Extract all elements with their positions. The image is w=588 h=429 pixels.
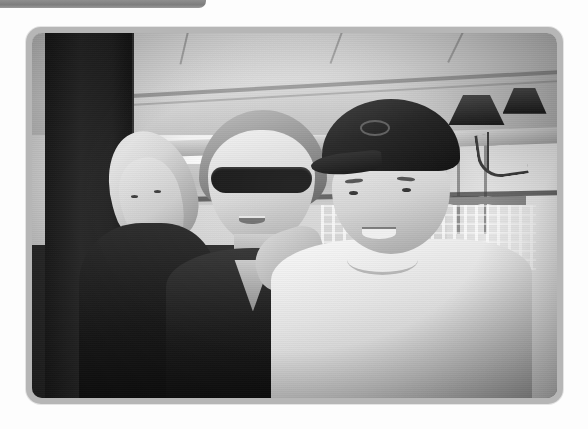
person-right	[305, 99, 515, 398]
awning-seam	[447, 33, 471, 63]
cap-logo-icon	[360, 120, 390, 136]
sunglasses-icon	[211, 167, 312, 193]
awning-seam	[180, 33, 193, 65]
awning-seam	[330, 33, 349, 64]
photo-frame[interactable]: Black and white photograph of three peop…	[26, 27, 563, 404]
photograph[interactable]: Black and white photograph of three peop…	[32, 33, 557, 398]
window-tab-bar[interactable]	[0, 0, 206, 8]
